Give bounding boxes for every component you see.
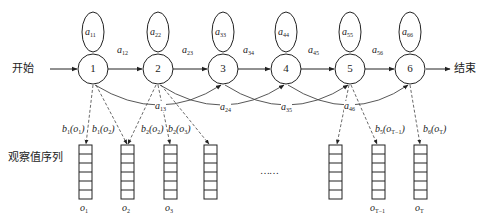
self-loop-label-1: a11 xyxy=(85,27,96,38)
observation-label-o2: o2 xyxy=(122,203,130,214)
state-label-2: 2 xyxy=(148,63,168,74)
obs-box-7 xyxy=(414,145,427,199)
start-label: 开始 xyxy=(12,63,34,74)
state-label-1: 1 xyxy=(83,63,103,74)
transition-label-23: a23 xyxy=(182,45,193,56)
transition-label-34: a34 xyxy=(243,45,254,56)
hmm-diagram xyxy=(0,0,486,219)
obs-box-1 xyxy=(79,145,92,199)
obs-box-4 xyxy=(204,145,217,199)
skip-label-46: a46 xyxy=(344,101,355,112)
emission-label-b5-oT-1: b5(oT−1) xyxy=(375,124,405,135)
observation-label-o3: o3 xyxy=(165,203,173,214)
transition-label-56: a56 xyxy=(372,45,383,56)
state-label-4: 4 xyxy=(276,63,296,74)
observation-label-o1: o1 xyxy=(80,203,88,214)
state-label-6: 6 xyxy=(400,63,420,74)
emission-label-b6-oT: b6(oT) xyxy=(423,124,446,135)
obs-box-6 xyxy=(372,145,385,199)
observation-label-oT: oT xyxy=(415,203,424,214)
skip-transitions xyxy=(95,85,408,105)
state-label-5: 5 xyxy=(340,63,360,74)
emission-lines xyxy=(86,85,420,144)
self-loop-label-3: a33 xyxy=(215,27,226,38)
emission-label-b2-o3: b2(o3) xyxy=(168,124,191,135)
transition-label-45: a45 xyxy=(308,45,319,56)
emission-label-b1-o2: b1(o2) xyxy=(92,124,115,135)
obs-box-2 xyxy=(121,145,134,199)
ellipsis: …… xyxy=(260,166,278,176)
emission-label-b2-o2: b2(o2) xyxy=(141,124,164,135)
self-loop-label-2: a22 xyxy=(150,27,161,38)
emission-label-b1-o1: b1(o1) xyxy=(62,124,85,135)
skip-label-35: a35 xyxy=(281,102,292,113)
skip-label-24: a24 xyxy=(220,102,231,113)
transition-label-12: a12 xyxy=(117,45,128,56)
skip-label-13: a13 xyxy=(155,101,166,112)
observation-label-oT-1: oT−1 xyxy=(370,203,385,214)
obs-box-3 xyxy=(164,145,177,199)
state-label-3: 3 xyxy=(213,63,233,74)
observation-sequence-label: 观察值序列 xyxy=(8,152,63,163)
obs-box-5 xyxy=(329,145,342,199)
self-loop-label-4: a44 xyxy=(278,27,289,38)
end-label: 结束 xyxy=(454,63,476,74)
observation-boxes xyxy=(79,145,427,199)
self-loop-label-5: a55 xyxy=(342,27,353,38)
self-loop-label-6: a66 xyxy=(402,27,413,38)
